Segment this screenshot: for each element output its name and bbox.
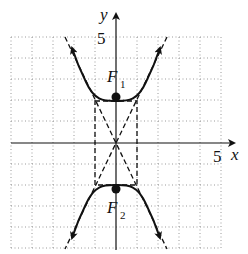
focus-subscript-2: 2	[120, 209, 126, 221]
focus-point-2	[112, 185, 121, 194]
upper-branch-right	[116, 48, 160, 101]
focus-subscript-1: 1	[120, 78, 126, 90]
hyperbola-graph: y 5 5 x F 1 F 2	[0, 0, 248, 254]
x-tick-label: 5	[213, 147, 222, 166]
x-axis-label: x	[230, 145, 239, 164]
focus-point-1	[112, 93, 121, 102]
y-axis-label: y	[98, 5, 108, 24]
focus-label-1: F	[106, 67, 118, 86]
focus-label-2: F	[106, 198, 118, 217]
y-tick-label: 5	[97, 29, 106, 48]
